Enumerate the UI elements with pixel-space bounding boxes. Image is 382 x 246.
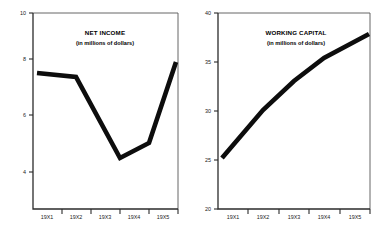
- ytick-label-working-capital-3: 35: [205, 59, 211, 65]
- xtick-label-working-capital-2: 19X3: [288, 214, 301, 220]
- xtick-label-working-capital-0: 19X1: [227, 214, 240, 220]
- xtick-label-working-capital-1: 19X2: [257, 214, 270, 220]
- xtick-label-net-income-1: 19X2: [70, 214, 83, 220]
- ytick-label-net-income-3: 10: [20, 10, 26, 16]
- data-line-working-capital: [222, 34, 369, 158]
- ytick-label-net-income-0: 4: [23, 169, 26, 175]
- xtick-label-net-income-3: 19X4: [128, 214, 141, 220]
- xtick-label-net-income-4: 19X5: [157, 214, 170, 220]
- working-capital-svg: 40 35 30 25 20 19X1 19X2 19X3 19X4 19X5 …: [191, 0, 382, 246]
- chart-title-working-capital: WORKING CAPITAL: [266, 29, 327, 36]
- ytick-label-net-income-2: 8: [23, 56, 26, 62]
- ytick-label-working-capital-4: 40: [205, 10, 211, 16]
- xtick-label-working-capital-3: 19X4: [318, 214, 331, 220]
- chart-panel-working-capital: 40 35 30 25 20 19X1 19X2 19X3 19X4 19X5 …: [191, 0, 382, 246]
- chart-title-net-income: NET INCOME: [85, 29, 125, 36]
- chart-subtitle-net-income: (in millions of dollars): [76, 40, 134, 46]
- xtick-label-net-income-2: 19X3: [99, 214, 112, 220]
- ytick-label-working-capital-2: 30: [205, 108, 211, 114]
- two-panel-line-chart-figure: 10 8 6 4 19X1 19X2 19X3 19X4 19X5 NET IN…: [0, 0, 382, 246]
- chart-subtitle-working-capital: (in millions of dollars): [267, 40, 325, 46]
- ytick-label-net-income-1: 6: [23, 112, 26, 118]
- xtick-label-working-capital-4: 19X5: [349, 214, 362, 220]
- xtick-label-net-income-0: 19X1: [41, 214, 54, 220]
- data-line-net-income: [37, 62, 176, 158]
- ytick-label-working-capital-1: 25: [205, 157, 211, 163]
- ytick-label-working-capital-0: 20: [205, 206, 211, 212]
- chart-panel-net-income: 10 8 6 4 19X1 19X2 19X3 19X4 19X5 NET IN…: [0, 0, 191, 246]
- net-income-svg: 10 8 6 4 19X1 19X2 19X3 19X4 19X5 NET IN…: [0, 0, 191, 246]
